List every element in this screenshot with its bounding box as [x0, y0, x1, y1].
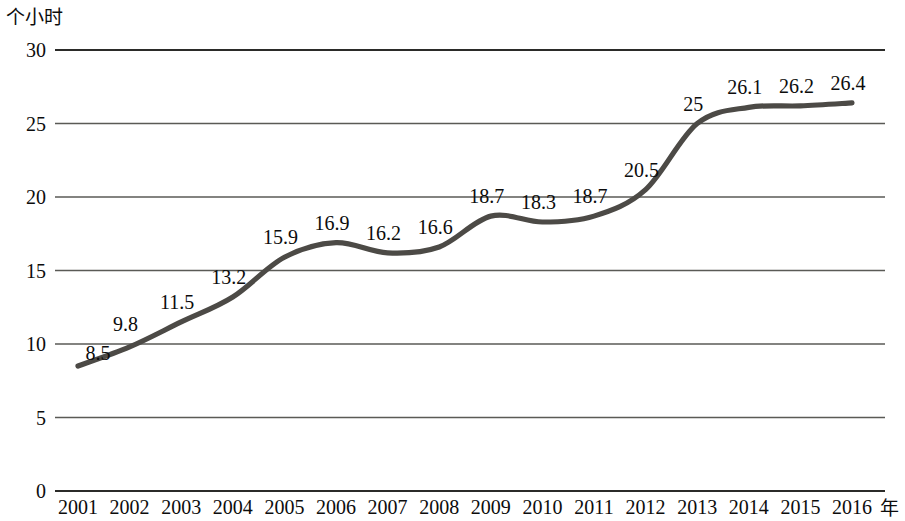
data-point-label: 16.9 [315, 213, 350, 233]
x-axis-tick-label: 2012 [626, 497, 666, 517]
data-point-label: 18.7 [573, 186, 608, 206]
y-axis-tick-label: 10 [26, 334, 46, 354]
x-axis-tick-label: 2010 [522, 497, 562, 517]
line-chart: 个小时 051015202530 20012002200320042005200… [0, 0, 905, 521]
y-axis-tick-label: 0 [36, 481, 46, 501]
x-axis-tick-label: 2008 [419, 497, 459, 517]
data-point-label: 9.8 [113, 314, 138, 334]
data-point-label: 15.9 [263, 227, 298, 247]
data-point-label: 11.5 [160, 292, 194, 312]
x-axis-unit-label: 年 [880, 499, 899, 518]
x-axis-tick-label: 2001 [58, 497, 98, 517]
data-point-label: 25 [683, 94, 703, 114]
data-point-label: 16.2 [366, 223, 401, 243]
x-axis-tick-label: 2003 [161, 497, 201, 517]
data-point-label: 26.1 [727, 77, 762, 97]
y-axis-tick-label: 15 [26, 261, 46, 281]
x-axis-tick-label: 2004 [213, 497, 253, 517]
x-axis-tick-label: 2011 [574, 497, 613, 517]
y-axis-tick-label: 5 [36, 408, 46, 428]
x-axis-tick-label: 2013 [677, 497, 717, 517]
y-axis-unit-label: 个小时 [6, 8, 64, 27]
data-point-label: 13.2 [211, 267, 246, 287]
data-point-label: 16.6 [418, 217, 453, 237]
gridlines-group [55, 50, 885, 491]
y-axis-tick-label: 25 [26, 114, 46, 134]
data-point-label: 26.4 [831, 73, 866, 93]
x-axis-tick-label: 2006 [316, 497, 356, 517]
data-point-label: 26.2 [779, 76, 814, 96]
x-axis-tick-label: 2015 [780, 497, 820, 517]
x-axis-tick-label: 2016 [832, 497, 872, 517]
data-point-label: 18.3 [521, 192, 556, 212]
data-point-label: 20.5 [624, 160, 659, 180]
series-line-path [78, 103, 852, 366]
data-point-label: 8.5 [86, 343, 111, 363]
y-axis-tick-label: 20 [26, 187, 46, 207]
x-axis-tick-label: 2005 [264, 497, 304, 517]
x-axis-tick-label: 2007 [368, 497, 408, 517]
x-axis-tick-label: 2002 [110, 497, 150, 517]
x-axis-tick-label: 2014 [729, 497, 769, 517]
x-axis-tick-label: 2009 [471, 497, 511, 517]
chart-plot-area [0, 0, 905, 521]
data-point-label: 18.7 [469, 186, 504, 206]
y-axis-tick-label: 30 [26, 40, 46, 60]
